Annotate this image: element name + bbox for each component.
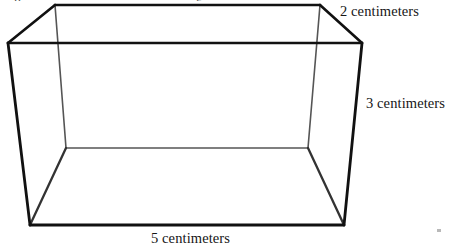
edge-top-left-diagonal [8, 5, 55, 43]
rectangular-prism-figure [0, 0, 453, 248]
edge-front-left-vertical [8, 43, 30, 225]
edge-bottom-right-diagonal [308, 148, 344, 225]
visible-edge-group [8, 5, 362, 225]
dimension-label-depth: 2 centimeters [340, 4, 419, 19]
dimension-label-height: 3 centimeters [366, 96, 445, 111]
edge-bottom-left-diagonal [30, 148, 66, 225]
edge-back-left-vertical [55, 5, 66, 148]
edge-front-right-vertical [344, 43, 362, 225]
dimension-label-length: 5 centimeters [151, 231, 230, 246]
edge-back-right-vertical [308, 5, 320, 148]
scan-artifact-speck [437, 229, 441, 232]
hidden-edge-group [30, 5, 344, 225]
